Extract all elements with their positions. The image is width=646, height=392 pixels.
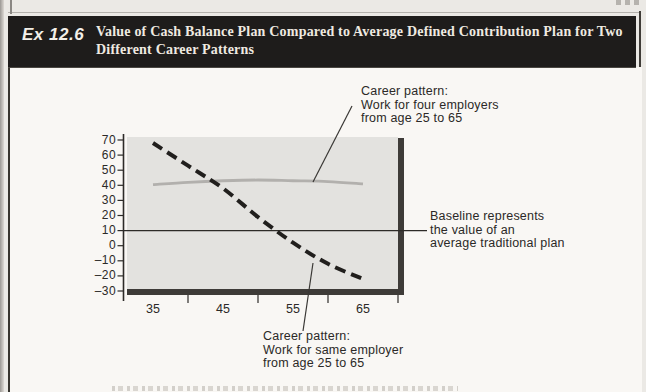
annotation-line: average traditional plan [430,237,565,251]
annotation-line: Work for four employers [361,99,499,113]
y-tick-label: 30 [82,193,116,207]
x-tick-label: 65 [349,302,377,316]
y-tick-label: 40 [82,178,116,192]
annotation-baseline: Baseline represents the value of an aver… [430,210,565,251]
annotation-line: Work for same employer [263,344,403,358]
annotation-line: Baseline represents [430,210,565,224]
scanned-page: Ex 12.6 Value of Cash Balance Plan Compa… [0,0,646,392]
annotation-line: Career pattern: [263,330,403,344]
x-tick-label: 45 [209,302,237,316]
y-tick-label: 0 [82,238,116,252]
cut-off-caption-remnant [112,386,458,391]
annotation-line: Career pattern: [361,85,499,99]
y-tick-label: –10 [82,253,116,267]
y-tick-label: 20 [82,208,116,222]
annotation-same-employer: Career pattern: Work for same employer f… [263,330,403,371]
y-tick-label: –30 [82,284,116,298]
annotation-line: from age 25 to 65 [361,112,499,126]
annotation-four-employers: Career pattern: Work for four employers … [361,85,499,126]
annotation-line: from age 25 to 65 [263,357,403,371]
y-tick-label: 70 [82,133,116,147]
annotation-line: the value of an [430,224,565,238]
y-tick-label: 10 [82,223,116,237]
y-tick-label: 60 [82,148,116,162]
y-tick-label: –20 [82,268,116,282]
x-tick-label: 55 [279,302,307,316]
x-tick-label: 35 [139,302,167,316]
y-tick-label: 50 [82,163,116,177]
